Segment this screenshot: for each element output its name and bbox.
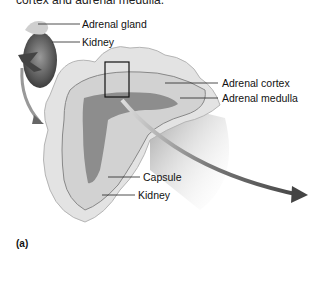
label-adrenal-gland: Adrenal gland — [82, 18, 147, 30]
adrenal-gland-illustration — [0, 0, 324, 299]
label-adrenal-medulla: Adrenal medulla — [222, 92, 298, 104]
panel-label: (a) — [16, 238, 28, 249]
label-kidney-bottom: Kidney — [138, 189, 170, 201]
label-kidney-top: Kidney — [82, 36, 114, 48]
arrow-head-icon — [291, 186, 308, 203]
label-capsule: Capsule — [143, 171, 182, 183]
label-adrenal-cortex: Adrenal cortex — [222, 77, 290, 89]
